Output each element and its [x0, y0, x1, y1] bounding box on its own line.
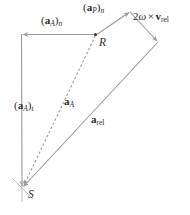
vector-diagram-figure: (aA)n (aP)n 2ω×vrel (aA)t aA arel R S [0, 0, 190, 215]
label-a-P-normal: (aP)n [83, 2, 104, 13]
point-label-s: S [28, 189, 34, 201]
label-a-rel: arel [91, 114, 104, 125]
label-a-A-normal: (aA)n [41, 15, 62, 26]
vector-line-a-A-resultant [24, 36, 96, 186]
label-a-A-tangential-subscript-component: t [31, 104, 33, 113]
label-a-P-normal-subscript-body: P [92, 6, 97, 15]
point-marker-r [94, 33, 97, 36]
point-label-r: R [99, 37, 106, 49]
label-a-A-tangential-subscript-body: A [23, 104, 28, 113]
label-a-P-normal-subscript-component: n [100, 6, 104, 15]
label-a-A-normal-subscript-component: n [58, 19, 62, 28]
label-a-A-resultant-vector: a [64, 95, 70, 107]
label-a-rel-subscript: rel [97, 118, 105, 127]
label-a-A-resultant-subscript: A [70, 100, 75, 109]
label-coriolis-cross: × [146, 10, 155, 22]
label-a-A-resultant: aA [64, 96, 74, 107]
vector-line-a-P-normal [96, 13, 129, 36]
label-a-A-normal-subscript-body: A [50, 19, 55, 28]
label-coriolis-subscript: rel [161, 15, 169, 24]
label-a-rel-vector: a [91, 113, 97, 125]
label-a-A-tangential: (aA)t [14, 100, 34, 111]
label-coriolis: 2ω×vrel [133, 11, 169, 22]
